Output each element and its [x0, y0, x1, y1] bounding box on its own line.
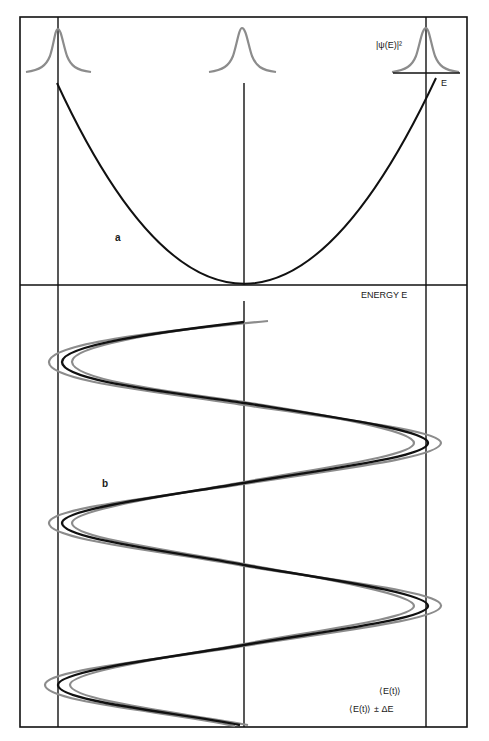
energy-axis-title: ENERGY E	[361, 290, 407, 300]
potential-parabola	[57, 78, 436, 284]
figure-canvas	[0, 0, 489, 741]
energy-axis-label: E	[441, 78, 447, 88]
gaussian-wavepackets	[26, 28, 459, 72]
panel-b-letter: b	[102, 478, 108, 489]
gaussian-center	[209, 28, 276, 72]
legend-mean: ⟨E(t)⟩	[379, 686, 402, 696]
energy-oscillation	[45, 321, 441, 726]
panel-a-letter: a	[115, 232, 121, 243]
legend-uncertainty: ⟨E(t)⟩ ± ΔE	[349, 704, 393, 714]
wavefunction-label: |ψ(E)|²	[376, 40, 402, 50]
